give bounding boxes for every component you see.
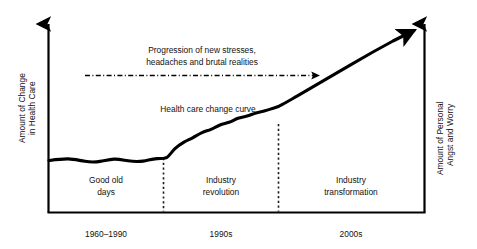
x-tick-label-1960-1990: 1960–1990 <box>85 229 127 239</box>
section-label-industry-revolution-line2: revolution <box>203 187 240 197</box>
left-axis-label-line1: Amount of Change <box>17 73 27 143</box>
section-label-industry-transformation-line2: transformation <box>324 187 378 197</box>
section-label-good-old-days-line1: Good old <box>89 175 123 185</box>
section-label-industry-revolution-line1: Industry <box>206 175 237 185</box>
progression-annotation-line2: headaches and brutal realities <box>146 57 258 67</box>
progression-annotation-line1: Progression of new stresses, <box>148 45 256 55</box>
curve-label: Health care change curve <box>160 104 256 114</box>
right-axis-label-line2: Angst and Worry <box>445 103 455 166</box>
section-label-industry-transformation-line1: Industry <box>336 175 367 185</box>
health-care-change-curve-figure: Amount of Change in Health Care Amount o… <box>0 0 477 249</box>
left-axis-label-line2: in Health Care <box>27 81 37 135</box>
x-tick-label-2000s: 2000s <box>340 229 363 239</box>
section-label-good-old-days-line2: days <box>97 187 115 197</box>
x-tick-label-1990s: 1990s <box>210 229 233 239</box>
right-axis-label-line1: Amount of Personal <box>435 101 445 175</box>
